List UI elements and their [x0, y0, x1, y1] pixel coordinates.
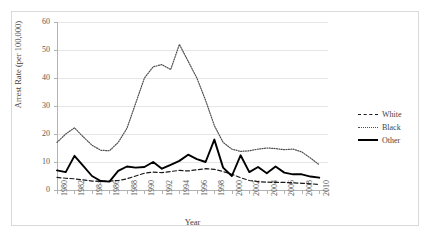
legend-item-other[interactable]: Other — [358, 134, 422, 147]
legend-swatch-icon — [358, 111, 378, 118]
legend-item-black[interactable]: Black — [358, 121, 422, 134]
legend-swatch-icon — [358, 124, 378, 131]
arrest-rate-line-chart: Arrest Rate (per 100,000) Year 010203040… — [0, 0, 432, 246]
series-line-white — [57, 169, 319, 185]
legend-label: White — [382, 111, 402, 119]
legend-label: Black — [382, 124, 401, 132]
series-line-black — [57, 44, 319, 164]
chart-legend: WhiteBlackOther — [358, 108, 422, 147]
legend-swatch-icon — [358, 137, 378, 144]
legend-item-white[interactable]: White — [358, 108, 422, 121]
series-line-other — [57, 140, 319, 182]
legend-label: Other — [382, 137, 400, 145]
